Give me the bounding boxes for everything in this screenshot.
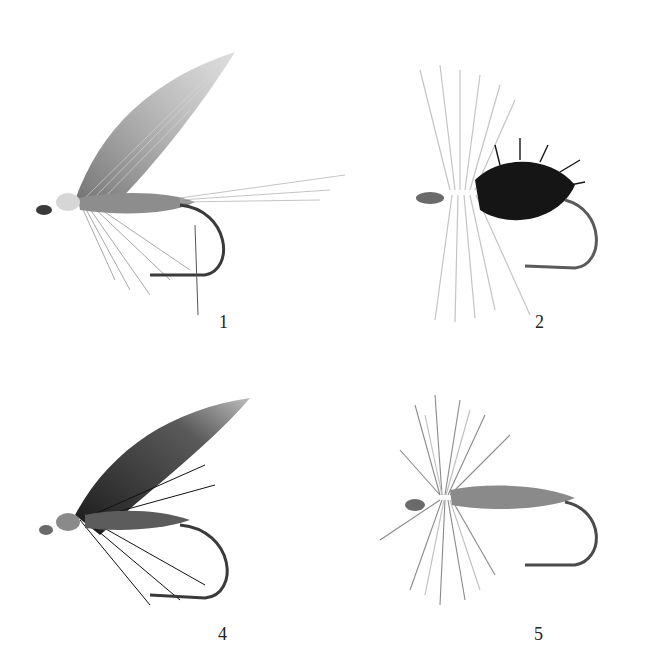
fly-image-4 bbox=[30, 390, 270, 620]
figure-label-5: 5 bbox=[534, 625, 543, 643]
fly-image-1 bbox=[30, 40, 360, 320]
fly-image-2 bbox=[390, 60, 620, 330]
dry-fly-grizzle-hackle-illustration bbox=[370, 390, 620, 620]
figure-label-4: 4 bbox=[218, 625, 227, 643]
figure-label-1: 1 bbox=[219, 313, 228, 331]
wet-fly-dark-wing-illustration bbox=[30, 390, 270, 620]
fly-image-5 bbox=[370, 390, 620, 620]
dry-fly-black-body-illustration bbox=[390, 60, 620, 330]
figure-label-2: 2 bbox=[535, 313, 544, 331]
fly-plate: 1 2 bbox=[0, 0, 647, 667]
wet-fly-grey-wing-illustration bbox=[30, 40, 360, 320]
